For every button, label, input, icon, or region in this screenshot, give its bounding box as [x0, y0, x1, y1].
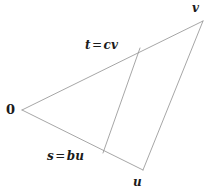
- label-point-t: t=cv: [85, 39, 118, 51]
- side-v-to-u: [143, 21, 203, 170]
- figure-canvas: 0 v u t=cv s=bu: [0, 0, 211, 196]
- segment-s-to-t: [103, 48, 140, 153]
- label-point-s: s=bu: [47, 150, 84, 162]
- label-point-s-operator: =: [54, 149, 67, 163]
- triangle-diagram: [0, 0, 211, 196]
- label-point-t-rhs: cv: [104, 38, 118, 52]
- label-vertex-v: v: [192, 2, 199, 14]
- label-origin: 0: [6, 103, 15, 116]
- label-point-s-lhs: s: [47, 149, 54, 163]
- label-point-t-lhs: t: [85, 38, 91, 52]
- side-origin-to-v: [22, 21, 203, 110]
- label-point-t-operator: =: [91, 38, 104, 52]
- label-point-s-rhs: bu: [67, 149, 84, 163]
- label-vertex-u: u: [133, 176, 142, 188]
